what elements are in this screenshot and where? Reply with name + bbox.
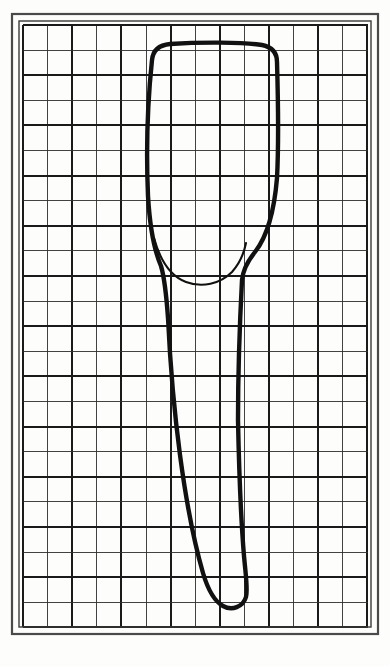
tooth-outline-figure: [0, 0, 390, 666]
figure-root: [0, 0, 390, 666]
